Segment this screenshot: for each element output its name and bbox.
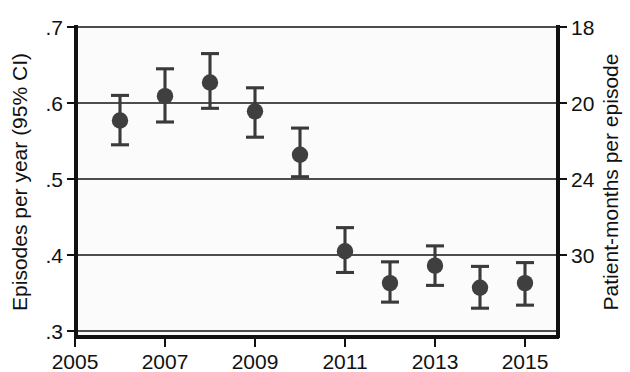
- y2-tick-label-18: 18: [571, 16, 594, 39]
- y2-tick-label-30: 30: [571, 244, 594, 267]
- x-tick-label-2007: 2007: [142, 350, 189, 372]
- y2-axis-tick-labels-group: 18202430: [571, 16, 595, 267]
- y-tick-label-.6: .6: [45, 92, 63, 115]
- marker-2008: [202, 74, 218, 90]
- chart-canvas: .7.6.5.4.3 18202430 20052007200920112013…: [0, 0, 630, 372]
- marker-2010: [292, 146, 308, 162]
- y-tick-label-.7: .7: [45, 16, 63, 39]
- marker-2013: [427, 257, 443, 273]
- y2-tick-label-24: 24: [571, 168, 595, 191]
- marker-2015: [517, 275, 533, 291]
- marker-2011: [337, 243, 353, 259]
- y-axis-tick-labels-group: .7.6.5.4.3: [45, 16, 63, 343]
- x-axis-tick-labels-group: 200520072009201120132015: [52, 350, 549, 372]
- y-axis-title: Episodes per year (95% CI): [8, 53, 31, 311]
- y-tick-label-.4: .4: [45, 244, 63, 267]
- y2-tick-label-20: 20: [571, 92, 594, 115]
- x-tick-label-2015: 2015: [502, 350, 549, 372]
- y-tick-label-.5: .5: [45, 168, 63, 191]
- marker-2014: [472, 279, 488, 295]
- y2-axis-title: Patient-months per episode: [599, 54, 622, 311]
- marker-2012: [382, 275, 398, 291]
- x-tick-label-2005: 2005: [52, 350, 99, 372]
- marker-2007: [157, 88, 173, 104]
- y-tick-label-.3: .3: [45, 320, 63, 343]
- chart-figure: .7.6.5.4.3 18202430 20052007200920112013…: [0, 0, 630, 372]
- x-tick-label-2013: 2013: [412, 350, 459, 372]
- x-tick-label-2011: 2011: [322, 350, 367, 372]
- x-tick-label-2009: 2009: [232, 350, 279, 372]
- marker-2009: [247, 103, 263, 119]
- marker-2006: [112, 112, 128, 128]
